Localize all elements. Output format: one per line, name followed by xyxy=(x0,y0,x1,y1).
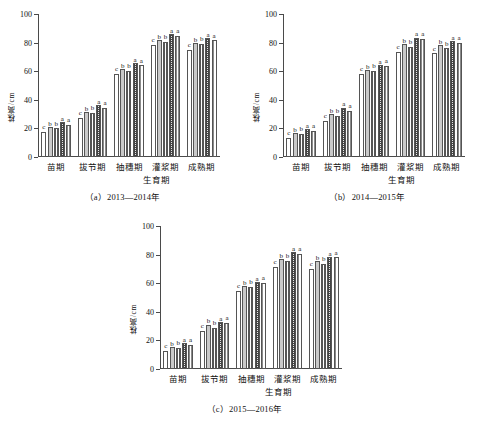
bar[interactable]: a xyxy=(102,108,107,157)
bar[interactable]: c xyxy=(286,138,291,157)
bar[interactable]: b xyxy=(365,70,370,157)
bar[interactable]: c xyxy=(273,267,278,369)
significance-letter: a xyxy=(61,116,64,123)
bar[interactable]: b xyxy=(329,114,334,157)
bar[interactable]: a xyxy=(414,38,419,157)
bar[interactable]: b xyxy=(48,127,53,157)
bar[interactable]: b xyxy=(444,48,449,157)
bar[interactable]: b xyxy=(242,286,247,369)
bar-group: cbbaa xyxy=(196,322,232,369)
bar[interactable]: a xyxy=(133,63,138,157)
bar[interactable]: a xyxy=(139,65,144,157)
bar-group: cbbaa xyxy=(283,129,319,157)
bar[interactable]: b xyxy=(170,347,175,369)
significance-letter: a xyxy=(342,101,345,108)
bar[interactable]: c xyxy=(78,118,83,157)
y-axis-tick-label: 100 xyxy=(20,10,32,19)
bar[interactable]: b xyxy=(285,261,290,369)
bar[interactable]: b xyxy=(402,44,407,157)
bar[interactable]: c xyxy=(151,45,156,157)
bar[interactable]: a xyxy=(341,108,346,157)
significance-letter: a xyxy=(206,32,209,39)
significance-letter: b xyxy=(366,64,370,71)
bar[interactable]: a xyxy=(457,43,462,157)
bar[interactable]: a xyxy=(297,254,302,369)
bar[interactable]: a xyxy=(175,36,180,157)
bar[interactable]: a xyxy=(205,38,210,157)
bar[interactable]: a xyxy=(66,125,71,157)
bar[interactable]: a xyxy=(188,345,193,369)
bar[interactable]: c xyxy=(309,269,314,369)
bar[interactable]: c xyxy=(114,74,119,157)
significance-letter: c xyxy=(310,261,313,268)
bar[interactable]: a xyxy=(378,65,383,157)
bar[interactable]: b xyxy=(299,134,304,157)
bar[interactable]: a xyxy=(347,111,352,157)
bar[interactable]: a xyxy=(311,131,316,157)
bar[interactable]: b xyxy=(54,128,59,157)
x-axis-category-label: 苗期 xyxy=(47,160,65,172)
bar[interactable]: b xyxy=(157,40,162,157)
bar[interactable]: b xyxy=(176,348,181,369)
significance-letter: b xyxy=(293,127,297,134)
significance-letter: a xyxy=(335,250,338,257)
bar[interactable]: b xyxy=(371,71,376,157)
y-axis-tick xyxy=(279,43,283,44)
bar[interactable]: b xyxy=(438,45,443,157)
bar[interactable]: a xyxy=(255,282,260,369)
bar[interactable]: b xyxy=(315,261,320,369)
bar[interactable]: a xyxy=(305,129,310,157)
y-axis-tick xyxy=(34,71,38,72)
bar[interactable]: a xyxy=(218,322,223,369)
bar[interactable]: a xyxy=(182,343,187,369)
y-axis-tick xyxy=(34,157,38,158)
bar[interactable]: b xyxy=(199,44,204,157)
bar[interactable]: b xyxy=(206,325,211,369)
bar[interactable]: a xyxy=(261,283,266,370)
bar[interactable]: c xyxy=(323,121,328,157)
bar[interactable]: c xyxy=(359,74,364,157)
bar[interactable]: a xyxy=(224,323,229,369)
y-axis-tick xyxy=(156,226,160,227)
bar[interactable]: a xyxy=(212,40,217,157)
bar[interactable]: b xyxy=(90,113,95,157)
bar[interactable]: b xyxy=(212,328,217,369)
bar-group: cbbaa xyxy=(356,65,392,157)
bar[interactable]: a xyxy=(60,122,65,157)
bar[interactable]: c xyxy=(396,52,401,157)
bar[interactable]: a xyxy=(291,252,296,369)
significance-letter: a xyxy=(140,58,143,65)
bar[interactable]: b xyxy=(193,43,198,157)
bar[interactable]: c xyxy=(432,53,437,157)
significance-letter: b xyxy=(85,106,89,113)
bar[interactable]: c xyxy=(236,291,241,369)
bar[interactable]: b xyxy=(126,71,131,158)
bar[interactable]: c xyxy=(187,50,192,157)
bar[interactable]: c xyxy=(41,132,46,157)
bar[interactable]: c xyxy=(200,331,205,369)
bar[interactable]: b xyxy=(163,42,168,157)
bar[interactable]: b xyxy=(120,69,125,157)
significance-letter: b xyxy=(316,255,320,262)
bar[interactable]: a xyxy=(169,34,174,157)
significance-letter: c xyxy=(360,66,363,73)
bar[interactable]: b xyxy=(408,47,413,157)
bar[interactable]: a xyxy=(96,105,101,157)
bar-group: cbbaa xyxy=(429,41,465,157)
y-axis-tick-label: 80 xyxy=(24,38,32,47)
bar[interactable]: a xyxy=(334,257,339,369)
significance-letter: a xyxy=(219,316,222,323)
bar[interactable]: b xyxy=(321,264,326,369)
bar[interactable]: b xyxy=(279,259,284,369)
bar[interactable]: b xyxy=(293,133,298,157)
bar[interactable]: b xyxy=(335,116,340,157)
bar[interactable]: a xyxy=(420,39,425,157)
bar[interactable]: a xyxy=(450,41,455,157)
bar[interactable]: b xyxy=(84,112,89,157)
bar[interactable]: a xyxy=(327,257,332,369)
significance-letter: c xyxy=(115,66,118,73)
bar[interactable]: b xyxy=(248,287,253,369)
bar[interactable]: c xyxy=(163,351,168,369)
significance-letter: b xyxy=(409,39,413,46)
bar[interactable]: a xyxy=(384,66,389,157)
